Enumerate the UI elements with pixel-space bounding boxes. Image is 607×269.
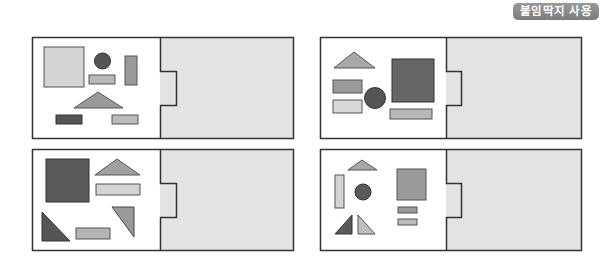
sticker-usage-badge: 붙임딱지 사용 bbox=[513, 3, 599, 20]
light-rectangle-shape bbox=[96, 184, 140, 195]
puzzle-card-2 bbox=[320, 37, 582, 139]
dark-circle-shape bbox=[95, 53, 111, 69]
dark-square-shape bbox=[392, 59, 434, 102]
medium-right-triangle-shape bbox=[112, 207, 134, 237]
dark-rectangle-shape bbox=[56, 115, 82, 124]
light-vertical-rectangle-shape bbox=[335, 175, 344, 208]
light-right-triangle-shape bbox=[358, 215, 375, 234]
dark-circle-shape bbox=[365, 88, 386, 109]
light-rectangle-shape bbox=[333, 100, 362, 113]
sticker-area[interactable] bbox=[160, 149, 293, 250]
medium-vertical-rectangle-shape bbox=[125, 56, 137, 85]
dark-circle-shape bbox=[355, 184, 371, 200]
puzzle-card-3 bbox=[32, 149, 294, 251]
medium-square-shape bbox=[397, 169, 426, 200]
sticker-area[interactable] bbox=[160, 37, 293, 138]
light-rectangle-shape bbox=[89, 75, 115, 84]
light-square-shape bbox=[44, 47, 84, 87]
sticker-area[interactable] bbox=[446, 149, 581, 250]
puzzle-card-4 bbox=[320, 149, 582, 251]
light-rectangle-shape-2 bbox=[390, 109, 432, 119]
medium-rectangle-shape bbox=[333, 80, 362, 93]
light-rectangle-shape-2 bbox=[112, 115, 138, 124]
medium-triangle-shape bbox=[95, 159, 140, 175]
medium-small-bar-shape bbox=[398, 207, 417, 213]
puzzle-card-1 bbox=[32, 37, 294, 139]
dark-square-shape bbox=[46, 159, 89, 202]
dark-right-triangle-shape bbox=[42, 212, 70, 241]
dark-right-triangle-shape bbox=[335, 215, 352, 234]
medium-triangle-shape bbox=[74, 92, 123, 108]
light-small-bar-shape bbox=[398, 219, 417, 225]
light-rectangle-shape-2 bbox=[76, 228, 110, 239]
medium-triangle-shape bbox=[348, 160, 377, 170]
medium-triangle-shape bbox=[334, 52, 375, 68]
sticker-area[interactable] bbox=[446, 37, 581, 138]
